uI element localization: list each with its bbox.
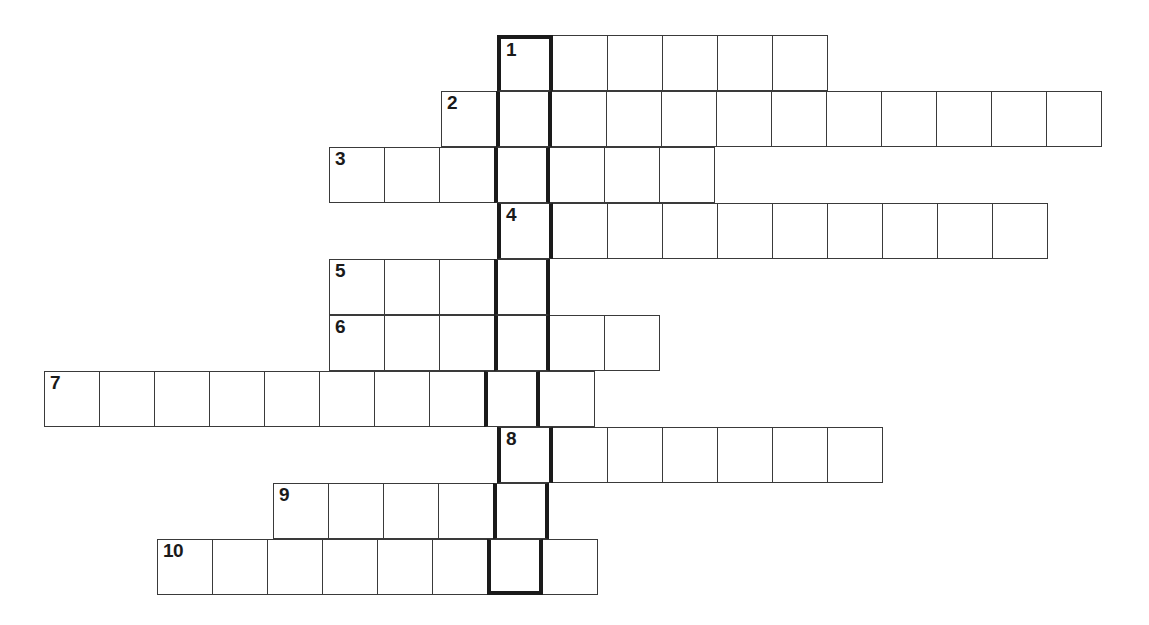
crossword-across-entry-1: 1 bbox=[497, 35, 833, 91]
crossword-clue-number-3: 3 bbox=[335, 149, 345, 170]
crossword-cell-r10-c5[interactable] bbox=[267, 539, 323, 595]
crossword-clue-number-1: 1 bbox=[506, 40, 516, 61]
crossword-cell-r2-c15[interactable] bbox=[826, 91, 882, 147]
crossword-cell-down-column-r7[interactable] bbox=[484, 371, 540, 427]
crossword-cell-r5-c8[interactable] bbox=[439, 259, 495, 315]
crossword-cell-r10-c3[interactable]: 10 bbox=[157, 539, 213, 595]
crossword-cell-r8-c10[interactable] bbox=[552, 427, 608, 483]
crossword-cell-r9-c7[interactable] bbox=[383, 483, 439, 539]
crossword-clue-number-7: 7 bbox=[50, 373, 60, 394]
crossword-grid: 12345678910 bbox=[0, 0, 1149, 625]
crossword-cell-r9-c6[interactable] bbox=[328, 483, 384, 539]
crossword-cell-r5-c7[interactable] bbox=[384, 259, 440, 315]
crossword-cell-r5-c6[interactable]: 5 bbox=[329, 259, 385, 315]
crossword-cell-r3-c12[interactable] bbox=[659, 147, 715, 203]
crossword-cell-r8-c12[interactable] bbox=[662, 427, 718, 483]
crossword-cell-down-column-r6[interactable] bbox=[494, 315, 550, 371]
crossword-cell-r7-c2[interactable] bbox=[99, 371, 155, 427]
crossword-cell-r7-c1[interactable]: 7 bbox=[44, 371, 100, 427]
crossword-clue-number-2: 2 bbox=[447, 93, 457, 114]
crossword-clue-number-6: 6 bbox=[335, 317, 345, 338]
crossword-cell-r1-c14[interactable] bbox=[772, 35, 828, 91]
crossword-cell-down-column-r1[interactable]: 1 bbox=[497, 35, 553, 91]
crossword-cell-r7-c10[interactable] bbox=[539, 371, 595, 427]
crossword-across-entry-9: 9 bbox=[273, 483, 553, 539]
crossword-cell-r2-c10[interactable] bbox=[551, 91, 607, 147]
crossword-cell-down-column-r2[interactable] bbox=[496, 91, 552, 147]
crossword-cell-r7-c7[interactable] bbox=[374, 371, 430, 427]
crossword-across-entry-3: 3 bbox=[329, 147, 721, 203]
crossword-cell-r7-c6[interactable] bbox=[319, 371, 375, 427]
crossword-cell-r1-c12[interactable] bbox=[662, 35, 718, 91]
crossword-cell-r4-c17[interactable] bbox=[937, 203, 993, 259]
crossword-cell-r1-c13[interactable] bbox=[717, 35, 773, 91]
crossword-clue-number-10: 10 bbox=[163, 541, 183, 562]
crossword-clue-number-8: 8 bbox=[506, 429, 516, 450]
crossword-cell-r3-c8[interactable] bbox=[439, 147, 495, 203]
crossword-cell-r3-c10[interactable] bbox=[549, 147, 605, 203]
crossword-across-entry-5: 5 bbox=[329, 259, 553, 315]
crossword-cell-r4-c14[interactable] bbox=[772, 203, 828, 259]
crossword-clue-number-4: 4 bbox=[506, 205, 516, 226]
crossword-cell-r2-c16[interactable] bbox=[881, 91, 937, 147]
crossword-cell-r10-c7[interactable] bbox=[377, 539, 433, 595]
crossword-cell-r4-c11[interactable] bbox=[607, 203, 663, 259]
crossword-cell-down-column-r10[interactable] bbox=[487, 539, 543, 595]
crossword-cell-down-column-r8[interactable]: 8 bbox=[497, 427, 553, 483]
crossword-cell-r6-c10[interactable] bbox=[549, 315, 605, 371]
crossword-cell-r6-c6[interactable]: 6 bbox=[329, 315, 385, 371]
crossword-cell-r9-c8[interactable] bbox=[438, 483, 494, 539]
crossword-cell-r7-c5[interactable] bbox=[264, 371, 320, 427]
crossword-cell-down-column-r4[interactable]: 4 bbox=[497, 203, 553, 259]
crossword-clue-number-5: 5 bbox=[335, 261, 345, 282]
crossword-cell-r7-c8[interactable] bbox=[429, 371, 485, 427]
crossword-across-entry-7: 7 bbox=[44, 371, 604, 427]
crossword-cell-r3-c7[interactable] bbox=[384, 147, 440, 203]
crossword-cell-r6-c7[interactable] bbox=[384, 315, 440, 371]
crossword-across-entry-2: 2 bbox=[441, 91, 1113, 147]
crossword-cell-down-column-r5[interactable] bbox=[494, 259, 550, 315]
crossword-cell-r2-c18[interactable] bbox=[991, 91, 1047, 147]
crossword-cell-r4-c15[interactable] bbox=[827, 203, 883, 259]
crossword-cell-r6-c8[interactable] bbox=[439, 315, 495, 371]
crossword-cell-r2-c12[interactable] bbox=[661, 91, 717, 147]
crossword-cell-r10-c4[interactable] bbox=[212, 539, 268, 595]
crossword-cell-r2-c11[interactable] bbox=[606, 91, 662, 147]
crossword-cell-r4-c13[interactable] bbox=[717, 203, 773, 259]
crossword-cell-r2-c8[interactable]: 2 bbox=[441, 91, 497, 147]
crossword-clue-number-9: 9 bbox=[279, 485, 289, 506]
crossword-cell-r4-c16[interactable] bbox=[882, 203, 938, 259]
crossword-cell-r8-c15[interactable] bbox=[827, 427, 883, 483]
crossword-cell-r8-c11[interactable] bbox=[607, 427, 663, 483]
crossword-cell-r2-c19[interactable] bbox=[1046, 91, 1102, 147]
crossword-cell-r10-c8[interactable] bbox=[432, 539, 488, 595]
crossword-cell-r10-c6[interactable] bbox=[322, 539, 378, 595]
crossword-cell-r4-c12[interactable] bbox=[662, 203, 718, 259]
crossword-across-entry-4: 4 bbox=[497, 203, 1057, 259]
crossword-cell-r4-c10[interactable] bbox=[552, 203, 608, 259]
crossword-cell-r1-c10[interactable] bbox=[552, 35, 608, 91]
crossword-cell-r7-c4[interactable] bbox=[209, 371, 265, 427]
crossword-cell-r8-c13[interactable] bbox=[717, 427, 773, 483]
crossword-across-entry-6: 6 bbox=[329, 315, 665, 371]
crossword-cell-r9-c5[interactable]: 9 bbox=[273, 483, 329, 539]
crossword-puzzle: 12345678910 bbox=[0, 0, 1149, 625]
crossword-cell-r4-c18[interactable] bbox=[992, 203, 1048, 259]
crossword-cell-r7-c3[interactable] bbox=[154, 371, 210, 427]
crossword-cell-r2-c14[interactable] bbox=[771, 91, 827, 147]
crossword-cell-r3-c6[interactable]: 3 bbox=[329, 147, 385, 203]
crossword-cell-r8-c14[interactable] bbox=[772, 427, 828, 483]
crossword-cell-down-column-r3[interactable] bbox=[494, 147, 550, 203]
crossword-cell-r2-c13[interactable] bbox=[716, 91, 772, 147]
crossword-cell-down-column-r9[interactable] bbox=[493, 483, 549, 539]
crossword-across-entry-8: 8 bbox=[497, 427, 889, 483]
crossword-cell-r10-c10[interactable] bbox=[542, 539, 598, 595]
crossword-cell-r6-c11[interactable] bbox=[604, 315, 660, 371]
crossword-cell-r3-c11[interactable] bbox=[604, 147, 660, 203]
crossword-cell-r1-c11[interactable] bbox=[607, 35, 663, 91]
crossword-cell-r2-c17[interactable] bbox=[936, 91, 992, 147]
crossword-across-entry-10: 10 bbox=[157, 539, 605, 595]
